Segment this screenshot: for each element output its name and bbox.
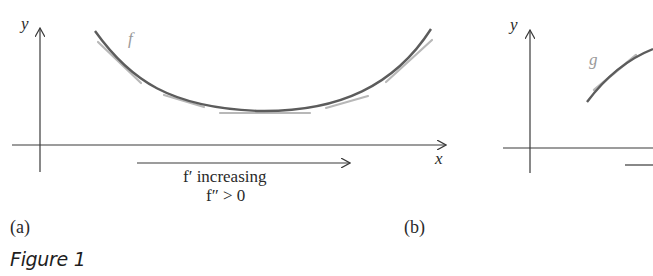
- annotation-f-prime-increasing: f′ increasing: [183, 167, 267, 187]
- panel-a-curve-f: [95, 29, 431, 111]
- panel-b-y-label: y: [510, 15, 518, 35]
- panel-a-x-label: x: [435, 149, 443, 169]
- panel-a-plot: [0, 28, 446, 172]
- panel-a-label: (a): [10, 217, 30, 238]
- panel-a-tangent-lines: [0, 40, 432, 113]
- panel-b-label: (b): [404, 217, 425, 238]
- panel-a-y-label: y: [21, 14, 29, 34]
- panel-b-curve-label: g: [589, 50, 598, 70]
- figure-canvas: [0, 0, 653, 276]
- figure-caption: Figure 1: [10, 248, 86, 270]
- annotation-f-double-prime-positive: f″ > 0: [206, 186, 245, 206]
- panel-a-curve-label: f: [128, 29, 133, 49]
- panel-b-plot: [503, 30, 653, 173]
